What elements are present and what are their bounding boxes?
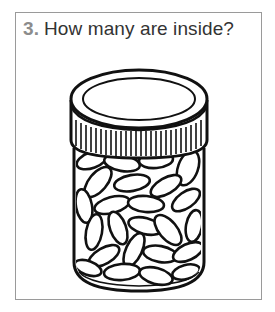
jar-cap	[71, 70, 207, 158]
jar-of-beans-icon	[0, 0, 275, 312]
